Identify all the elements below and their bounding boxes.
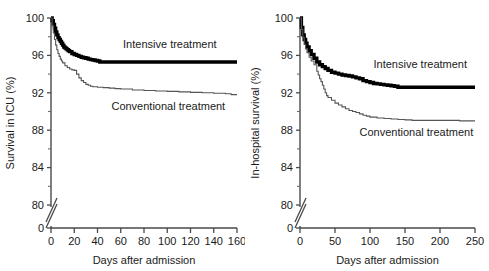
x-tick-label-140: 140 [205, 235, 223, 247]
x-tick-label-160: 160 [228, 235, 245, 247]
y-tick-label-0: 0 [38, 222, 44, 234]
chart-in-hospital-survival: 08084889296100050100150200250Days after … [245, 0, 489, 271]
chart-survival-in-icu: 08084889296100020406080100120140160Days … [0, 0, 245, 271]
x-tick-label-0: 0 [297, 235, 303, 247]
y-tick-label-92: 92 [32, 87, 44, 99]
x-tick-label-100: 100 [158, 235, 176, 247]
panel-survival-in-icu: 08084889296100020406080100120140160Days … [0, 0, 245, 271]
axis-break-slash-1 [46, 204, 57, 228]
label-conventional-treatment: Conventional treatment [111, 100, 225, 112]
curve-intensive-treatment [300, 18, 475, 87]
y-tick-label-84: 84 [32, 161, 44, 173]
x-tick-label-20: 20 [68, 235, 80, 247]
survival-curves-figure: 08084889296100020406080100120140160Days … [0, 0, 489, 271]
x-tick-label-250: 250 [466, 235, 484, 247]
x-tick-label-40: 40 [91, 235, 103, 247]
y-tick-label-92: 92 [281, 87, 293, 99]
x-tick-label-120: 120 [181, 235, 199, 247]
x-tick-label-200: 200 [431, 235, 449, 247]
x-tick-label-50: 50 [329, 235, 341, 247]
x-tick-label-60: 60 [115, 235, 127, 247]
y-tick-label-80: 80 [32, 199, 44, 211]
y-tick-label-84: 84 [281, 161, 293, 173]
y-tick-label-100: 100 [275, 12, 293, 24]
x-tick-label-0: 0 [48, 235, 54, 247]
label-intensive-treatment: Intensive treatment [123, 38, 217, 50]
x-axis-title: Days after admission [93, 254, 196, 266]
y-tick-label-0: 0 [287, 222, 293, 234]
y-tick-label-100: 100 [26, 12, 44, 24]
axis-break-slash-1 [295, 204, 306, 228]
y-tick-label-80: 80 [281, 199, 293, 211]
panel-in-hospital-survival: 08084889296100050100150200250Days after … [245, 0, 489, 271]
y-tick-label-96: 96 [32, 49, 44, 61]
label-conventional-treatment: Conventional treatment [360, 126, 474, 138]
y-tick-label-96: 96 [281, 49, 293, 61]
y-tick-label-88: 88 [281, 124, 293, 136]
right-axes-group: 08084889296100050100150200250Days after … [249, 12, 484, 266]
y-axis-title: Survival in ICU (%) [4, 77, 16, 170]
x-tick-label-100: 100 [361, 235, 379, 247]
x-axis-title: Days after admission [336, 254, 439, 266]
x-tick-label-150: 150 [396, 235, 414, 247]
left-axes-group: 08084889296100020406080100120140160Days … [4, 12, 245, 266]
label-intensive-treatment: Intensive treatment [374, 58, 468, 70]
y-tick-label-88: 88 [32, 124, 44, 136]
y-axis-title: In-hospital survival (%) [249, 67, 261, 178]
x-tick-label-80: 80 [138, 235, 150, 247]
